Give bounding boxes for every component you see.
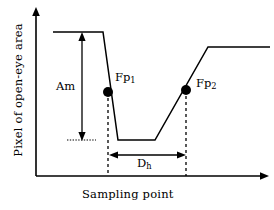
signal-curve bbox=[53, 32, 270, 140]
y-axis-title: Pixel of open-eye area bbox=[13, 15, 29, 165]
feature-point-1-label-subscript: 1 bbox=[130, 75, 135, 85]
plot-canvas bbox=[0, 0, 274, 210]
feature-point-1-label: Fp1 bbox=[115, 72, 136, 84]
feature-point-1-dot bbox=[103, 87, 113, 97]
feature-point-2-dot bbox=[181, 85, 191, 95]
duration-label-base: D bbox=[137, 156, 146, 170]
amplitude-label: Am bbox=[56, 81, 75, 93]
feature-point-2-label: Fp2 bbox=[196, 78, 217, 90]
y-axis bbox=[32, 7, 40, 176]
duration-label-subscript: h bbox=[146, 161, 151, 171]
amplitude-measure-arrow bbox=[78, 32, 85, 141]
amplitude-arrow-head-up-icon bbox=[78, 32, 85, 41]
x-axis-arrow-icon bbox=[260, 172, 269, 180]
feature-point-2-label-base: Fp bbox=[196, 76, 211, 90]
duration-arrow-head-left-icon bbox=[109, 151, 118, 158]
blink-waveform-figure: Pixel of open-eye area Sampling point Am… bbox=[0, 0, 274, 210]
x-axis bbox=[36, 172, 269, 180]
feature-point-2-label-subscript: 2 bbox=[211, 81, 216, 91]
duration-arrow-head-right-icon bbox=[177, 151, 186, 158]
duration-label: Dh bbox=[137, 158, 152, 170]
feature-point-1-label-base: Fp bbox=[115, 70, 130, 84]
x-axis-title: Sampling point bbox=[82, 189, 174, 201]
y-axis-arrow-icon bbox=[32, 7, 40, 16]
